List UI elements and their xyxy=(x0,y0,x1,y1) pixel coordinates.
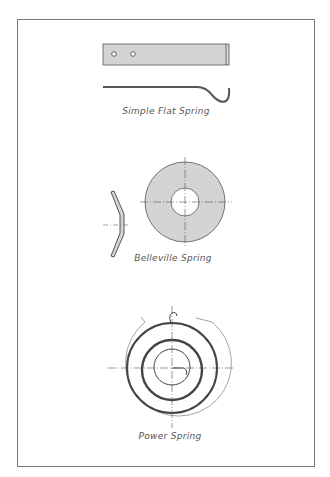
caption-belleville-spring: Belleville Spring xyxy=(134,253,212,263)
caption-flat-spring: Simple Flat Spring xyxy=(122,106,210,116)
spring-drawings xyxy=(0,0,330,477)
power-spring xyxy=(108,306,234,428)
belleville-side xyxy=(103,191,130,257)
caption-power-spring: Power Spring xyxy=(138,431,201,441)
flat-spring-side xyxy=(103,87,229,102)
flat-spring-bar xyxy=(103,44,229,65)
belleville-front xyxy=(140,157,232,248)
